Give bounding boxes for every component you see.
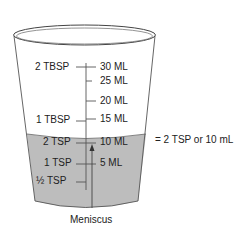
label-2-tbsp: 2 TBSP bbox=[35, 62, 69, 72]
cup-rim-inner bbox=[17, 28, 153, 44]
label-25-ml: 25 ML bbox=[100, 76, 128, 86]
label-10-ml: 10 ML bbox=[100, 137, 128, 147]
label-20-ml: 20 ML bbox=[100, 96, 128, 106]
label-30-ml: 30 ML bbox=[100, 62, 128, 72]
label-1-tsp: 1 TSP bbox=[44, 158, 72, 168]
label-5-ml: 5 ML bbox=[100, 158, 122, 168]
label-1-tbsp: 1 TBSP bbox=[36, 115, 70, 125]
meniscus-label: Meniscus bbox=[70, 215, 112, 225]
medicine-cup-diagram bbox=[0, 0, 247, 250]
label-15-ml: 15 ML bbox=[100, 114, 128, 124]
label-2-tsp: 2 TSP bbox=[43, 137, 71, 147]
equivalence-label: = 2 TSP or 10 mL bbox=[155, 135, 233, 145]
label-half-tsp: ½ TSP bbox=[36, 176, 66, 186]
